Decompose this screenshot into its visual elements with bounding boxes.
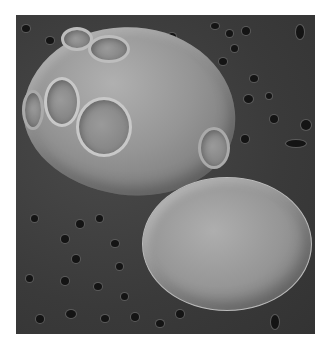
filter-pore xyxy=(31,215,38,222)
filter-pore xyxy=(36,315,44,323)
filter-pore xyxy=(226,30,233,37)
filter-pore xyxy=(242,27,250,35)
filter-pore xyxy=(101,315,109,322)
filter-pore xyxy=(72,255,80,263)
filter-pore xyxy=(266,93,272,99)
filter-pore xyxy=(270,115,278,123)
filter-pore xyxy=(22,25,30,32)
filter-pore xyxy=(296,25,304,39)
filter-pore xyxy=(116,263,123,270)
bud-scar xyxy=(76,97,132,157)
micrograph-frame xyxy=(16,15,315,334)
filter-pore xyxy=(231,45,238,52)
filter-pore xyxy=(66,310,76,318)
filter-pore xyxy=(96,215,103,222)
filter-pore xyxy=(61,277,69,285)
filter-pore xyxy=(241,135,249,143)
filter-pore xyxy=(94,283,102,290)
bud-scar xyxy=(61,27,93,51)
bud-scar xyxy=(88,35,130,63)
yeast-cell-smooth xyxy=(142,177,312,311)
filter-pore xyxy=(271,315,279,329)
filter-pore xyxy=(156,320,164,327)
filter-pore xyxy=(46,37,54,44)
bud-scar xyxy=(44,77,80,127)
filter-pore xyxy=(211,23,219,29)
filter-pore xyxy=(26,275,33,282)
bud-scar xyxy=(198,127,230,169)
filter-pore xyxy=(76,220,84,228)
filter-pore xyxy=(301,120,311,130)
bud-scar xyxy=(22,90,44,130)
filter-pore xyxy=(250,75,258,82)
filter-pore xyxy=(244,95,253,103)
filter-pore xyxy=(121,293,128,300)
filter-pore xyxy=(131,313,139,321)
filter-pore xyxy=(219,58,227,65)
filter-pore xyxy=(286,140,306,147)
filter-pore xyxy=(111,240,119,247)
filter-pore xyxy=(176,310,184,318)
filter-pore xyxy=(61,235,69,243)
